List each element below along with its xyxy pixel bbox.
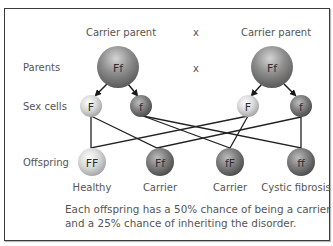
caption: Each offspring has a 50% chance of being… — [65, 202, 325, 230]
sex-cell-right-f: f — [290, 95, 312, 117]
sex-cell-right-F: F — [237, 95, 259, 117]
svg-text:Ff: Ff — [113, 62, 124, 75]
svg-text:F: F — [245, 101, 251, 114]
caption-line-2: and a 25% chance of inheriting the disor… — [65, 216, 325, 230]
offspring-ff: ff Cystic fibrosis — [261, 148, 330, 193]
svg-text:FF: FF — [86, 157, 99, 170]
cross-lines — [91, 116, 301, 148]
right-parent-title: Carrier parent — [241, 27, 311, 38]
offspring-label: Carrier — [143, 182, 178, 193]
offspring-FF: FF Healthy — [73, 148, 112, 193]
arrow-icon — [128, 84, 137, 95]
svg-text:F: F — [88, 101, 94, 114]
caption-line-1: Each offspring has a 50% chance of being… — [65, 202, 325, 216]
svg-text:Ff: Ff — [267, 62, 278, 75]
left-parent-title: Carrier parent — [86, 27, 156, 38]
parent-left: Ff — [97, 46, 139, 88]
row-label-parents: Parents — [23, 62, 60, 73]
arrow-icon — [96, 84, 107, 95]
sex-cell-left-f: f — [130, 95, 152, 117]
sex-cell-left-F: F — [80, 95, 102, 117]
offspring-Ff: Ff Carrier — [143, 148, 178, 193]
cross-symbol-mid: x — [193, 63, 199, 74]
offspring-label: Cystic fibrosis — [261, 182, 330, 193]
parent-right: Ff — [251, 46, 293, 88]
offspring-label: Carrier — [213, 182, 248, 193]
offspring-label: Healthy — [73, 182, 112, 193]
cross-symbol-top: x — [193, 27, 199, 38]
svg-text:ff: ff — [297, 157, 305, 170]
row-label-offspring: Offspring — [23, 157, 69, 168]
row-label-sex-cells: Sex cells — [23, 101, 67, 112]
svg-text:fF: fF — [225, 157, 235, 170]
svg-text:Ff: Ff — [155, 157, 166, 170]
arrow-icon — [252, 84, 262, 95]
offspring-fF: fF Carrier — [213, 148, 248, 193]
arrow-icon — [284, 84, 295, 95]
